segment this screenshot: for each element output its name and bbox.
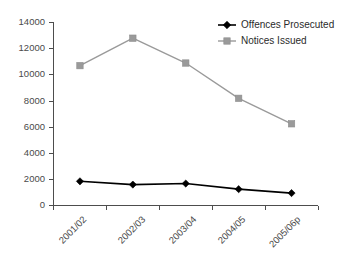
data-point-square-marker (183, 60, 189, 66)
y-tick-label: 8000 (24, 95, 45, 106)
y-tick-label: 14000 (19, 16, 45, 27)
data-point-square-marker (77, 62, 83, 68)
y-tick-label: 10000 (19, 68, 45, 79)
y-tick-label: 4000 (24, 147, 45, 158)
chart-canvas: 14000 12000 10000 8000 6000 4000 2000 0 … (0, 0, 343, 261)
data-point-square-marker (235, 95, 241, 101)
legend-label-offences-prosecuted: Offences Prosecuted (241, 19, 334, 30)
legend-label-notices-issued: Notices Issued (241, 35, 307, 46)
y-tick-label: 12000 (19, 42, 45, 53)
y-tick-label: 6000 (24, 121, 45, 132)
data-point-square-marker (288, 121, 294, 127)
line-chart: 14000 12000 10000 8000 6000 4000 2000 0 … (0, 0, 343, 261)
y-tick-label: 0 (40, 199, 45, 210)
legend-square-marker-icon (224, 38, 230, 44)
y-tick-label: 2000 (24, 173, 45, 184)
data-point-square-marker (130, 35, 136, 41)
